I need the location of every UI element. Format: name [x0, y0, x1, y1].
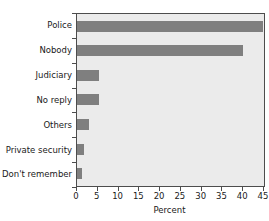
x-axis-tick-label: 15: [133, 191, 144, 201]
x-axis-tick-label: 5: [94, 191, 99, 201]
bar: [77, 94, 99, 105]
bar-slot: [77, 161, 264, 186]
x-axis-tick-label: 40: [237, 191, 248, 201]
bar-chart: PoliceNobodyJudiciaryNo replyOthersPriva…: [0, 0, 269, 221]
y-axis-category-label: Don't remember: [2, 169, 72, 179]
x-axis-tick-label: 25: [174, 191, 185, 201]
bar: [77, 21, 263, 32]
y-axis-category-labels: PoliceNobodyJudiciaryNo replyOthersPriva…: [0, 13, 72, 187]
x-axis-tick-label: 10: [112, 191, 123, 201]
x-axis-title: Percent: [76, 205, 263, 215]
bar: [77, 70, 99, 81]
y-axis-category-label: Police: [47, 20, 72, 30]
bar-slot: [77, 88, 264, 113]
bar-slot: [77, 14, 264, 39]
plot-area: [76, 13, 265, 187]
bar: [77, 45, 243, 56]
bar-series: [77, 14, 264, 186]
y-axis-category-label: No reply: [36, 95, 72, 105]
y-axis-category-label: Others: [43, 120, 72, 130]
bar-slot: [77, 39, 264, 64]
bar-slot: [77, 63, 264, 88]
y-axis-category-label: Judiciary: [36, 70, 72, 80]
bar-slot: [77, 137, 264, 162]
y-axis-category-label: Nobody: [39, 45, 72, 55]
y-axis-category-label: Private security: [6, 145, 72, 155]
x-axis-tick-label: 35: [216, 191, 227, 201]
x-axis-tick-label: 0: [73, 191, 78, 201]
bar: [77, 119, 89, 130]
bar: [77, 168, 82, 179]
x-axis-tick-label: 30: [195, 191, 206, 201]
x-axis-tick-label: 45: [258, 191, 269, 201]
x-axis-tick-labels: 051015202530354045: [76, 191, 263, 203]
bar: [77, 144, 84, 155]
bar-slot: [77, 112, 264, 137]
x-axis-tick-label: 20: [154, 191, 165, 201]
